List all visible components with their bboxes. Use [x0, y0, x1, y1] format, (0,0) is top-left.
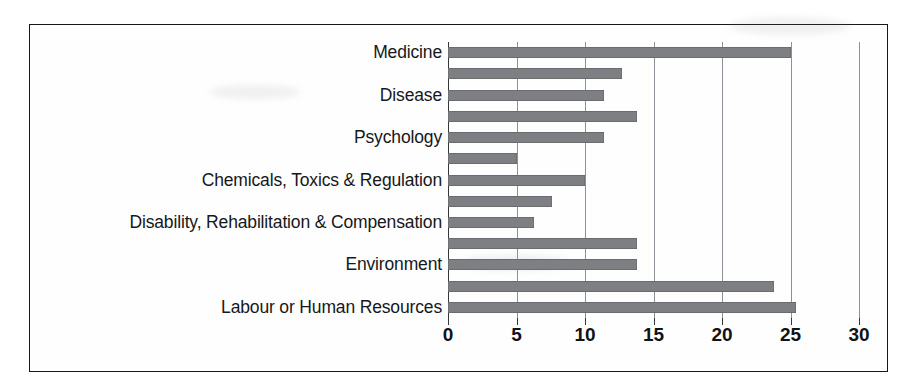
- tick-mark-15: [654, 318, 655, 325]
- tick-mark-30: [859, 318, 860, 325]
- bar[interactable]: [448, 153, 517, 164]
- category-label: Disease: [380, 87, 442, 105]
- bar-row[interactable]: [448, 259, 637, 270]
- tick-mark-10: [585, 318, 586, 325]
- bar[interactable]: [448, 132, 604, 143]
- bar[interactable]: [448, 302, 796, 313]
- category-label: Psychology: [354, 129, 442, 147]
- value-axis: 051015202530: [448, 325, 859, 351]
- bar[interactable]: [448, 217, 534, 228]
- tick-label-0: 0: [443, 325, 454, 344]
- plot-area: [448, 42, 859, 318]
- bar[interactable]: [448, 111, 637, 122]
- bar[interactable]: [448, 68, 622, 79]
- bar-row[interactable]: [448, 111, 637, 122]
- bar-row[interactable]: [448, 153, 517, 164]
- tick-mark-20: [722, 318, 723, 325]
- bar-row[interactable]: [448, 68, 622, 79]
- bar-row[interactable]: [448, 90, 604, 101]
- tick-mark-0: [448, 318, 449, 325]
- gridline-25: [791, 42, 792, 318]
- chart-frame: MedicineDiseasePsychologyChemicals, Toxi…: [29, 24, 888, 372]
- bar-row[interactable]: [448, 302, 796, 313]
- bar[interactable]: [448, 238, 637, 249]
- bar-row[interactable]: [448, 196, 552, 207]
- tick-label-10: 10: [574, 325, 595, 344]
- bar[interactable]: [448, 281, 774, 292]
- category-axis: MedicineDiseasePsychologyChemicals, Toxi…: [30, 42, 442, 318]
- gridline-30: [859, 42, 860, 318]
- bar[interactable]: [448, 90, 604, 101]
- bar[interactable]: [448, 196, 552, 207]
- bar-row[interactable]: [448, 238, 637, 249]
- bar-row[interactable]: [448, 217, 534, 228]
- bar[interactable]: [448, 175, 585, 186]
- tick-label-25: 25: [780, 325, 801, 344]
- category-label: Labour or Human Resources: [221, 299, 442, 317]
- tick-label-20: 20: [711, 325, 732, 344]
- bar-row[interactable]: [448, 175, 585, 186]
- bar[interactable]: [448, 47, 791, 58]
- tick-label-30: 30: [848, 325, 869, 344]
- bar-row[interactable]: [448, 132, 604, 143]
- category-label: Environment: [345, 256, 442, 274]
- tick-label-5: 5: [511, 325, 522, 344]
- category-label: Disability, Rehabilitation & Compensatio…: [129, 214, 442, 232]
- category-label: Medicine: [373, 44, 442, 62]
- bar-row[interactable]: [448, 281, 774, 292]
- gridline-20: [722, 42, 723, 318]
- bar[interactable]: [448, 259, 637, 270]
- category-label: Chemicals, Toxics & Regulation: [202, 172, 442, 190]
- gridline-15: [654, 42, 655, 318]
- tick-mark-5: [517, 318, 518, 325]
- tick-label-15: 15: [643, 325, 664, 344]
- tick-mark-25: [791, 318, 792, 325]
- gridline-10: [585, 42, 586, 318]
- bar-row[interactable]: [448, 47, 791, 58]
